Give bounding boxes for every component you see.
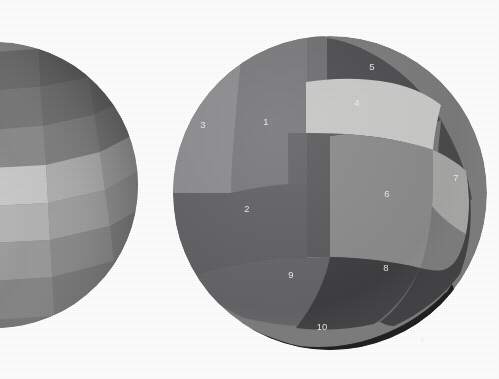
scan-artifact-speck: [421, 337, 424, 343]
left-sphere-shading: [0, 42, 138, 328]
right-sphere-shading: [173, 36, 487, 350]
spheres-illustration: 1 2 3 4 5 6 7 8 9 10: [0, 0, 499, 379]
right-sphere: [173, 27, 487, 371]
left-sphere: [0, 20, 200, 340]
figure-canvas: 1 2 3 4 5 6 7 8 9 10: [0, 0, 499, 379]
